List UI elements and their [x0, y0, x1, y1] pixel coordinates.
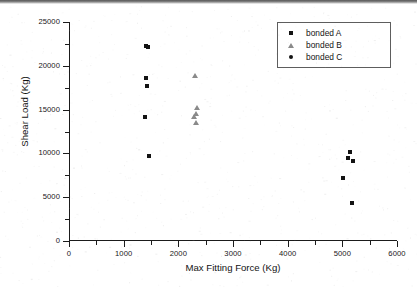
data-point-marker: [145, 84, 149, 88]
data-point-marker: [191, 114, 197, 119]
x-tick-label: 6000: [377, 249, 417, 258]
data-point-marker: [193, 120, 199, 125]
data-point-marker: [194, 105, 200, 110]
y-tick-label: 10000: [38, 148, 60, 157]
x-tick-minor: [151, 241, 152, 245]
x-tick-minor: [96, 241, 97, 245]
legend-label: bonded B: [306, 40, 342, 50]
x-tick-label: 2000: [158, 249, 198, 258]
x-tick-minor: [370, 241, 371, 245]
x-tick-minor: [315, 241, 316, 245]
legend-item-bonded-b[interactable]: bonded B: [283, 39, 384, 51]
data-point-marker: [144, 76, 148, 80]
x-tick-major: [233, 241, 234, 247]
x-tick-minor: [206, 241, 207, 245]
data-point-marker: [192, 73, 198, 78]
legend-marker-triangle-icon: [283, 43, 299, 48]
x-axis-title: Max Fitting Force (Kg): [69, 262, 397, 273]
x-tick-major: [69, 241, 70, 247]
legend-label: bonded C: [306, 52, 342, 62]
data-point-marker: [350, 201, 354, 205]
legend-item-bonded-c[interactable]: bonded C: [283, 51, 384, 63]
y-tick-label: 5000: [43, 192, 60, 201]
legend-label: bonded A: [306, 28, 341, 38]
x-tick-label: 5000: [322, 249, 362, 258]
x-tick-minor: [260, 241, 261, 245]
x-tick-major: [397, 241, 398, 247]
x-tick-major: [178, 241, 179, 247]
x-tick-label: 3000: [213, 249, 253, 258]
x-tick-label: 0: [49, 249, 89, 258]
y-tick-label: 0: [56, 236, 60, 245]
legend-marker-circle-icon: [283, 55, 299, 59]
legend-marker-square-icon: [283, 31, 299, 35]
x-tick-label: 1000: [104, 249, 144, 258]
x-tick-label: 4000: [268, 249, 308, 258]
scatter-chart-figure: 0500010000150002000025000 01000200030004…: [0, 0, 417, 287]
data-point-marker: [348, 150, 352, 154]
y-tick-label: 15000: [38, 105, 60, 114]
y-tick-label: 20000: [38, 61, 60, 70]
y-tick-label: 25000: [38, 17, 60, 26]
x-tick-major: [124, 241, 125, 247]
data-point-marker: [146, 45, 150, 49]
legend-item-bonded-a[interactable]: bonded A: [283, 27, 384, 39]
chart-legend: bonded A bonded B bonded C: [277, 22, 391, 68]
data-point-marker: [351, 159, 355, 163]
x-tick-major: [342, 241, 343, 247]
data-point-marker: [341, 176, 345, 180]
x-tick-major: [288, 241, 289, 247]
data-point-marker: [143, 115, 147, 119]
data-point-marker: [147, 154, 151, 158]
y-axis-title: Shear Load (Kg): [19, 42, 30, 182]
